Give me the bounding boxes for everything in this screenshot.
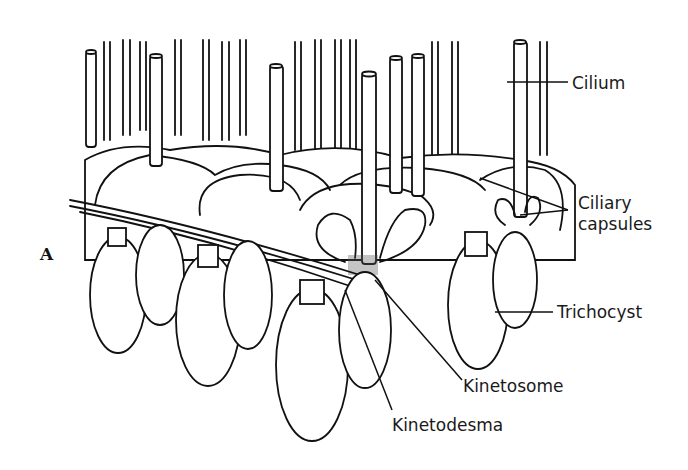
panel-letter: A — [40, 244, 53, 264]
label-ciliary-capsules-line2: capsules — [578, 213, 652, 235]
label-ciliary-capsules-line1: Ciliary — [578, 192, 632, 214]
label-kinetodesma: Kinetodesma — [392, 414, 503, 436]
cortex-illustration — [0, 0, 688, 470]
cilia-back-row — [104, 40, 547, 160]
diagram-stage: A Cilium Ciliary capsules Trichocyst Kin… — [0, 0, 688, 470]
label-kinetosome: Kinetosome — [463, 375, 563, 397]
label-cilium: Cilium — [572, 72, 625, 94]
label-trichocyst: Trichocyst — [557, 301, 642, 323]
